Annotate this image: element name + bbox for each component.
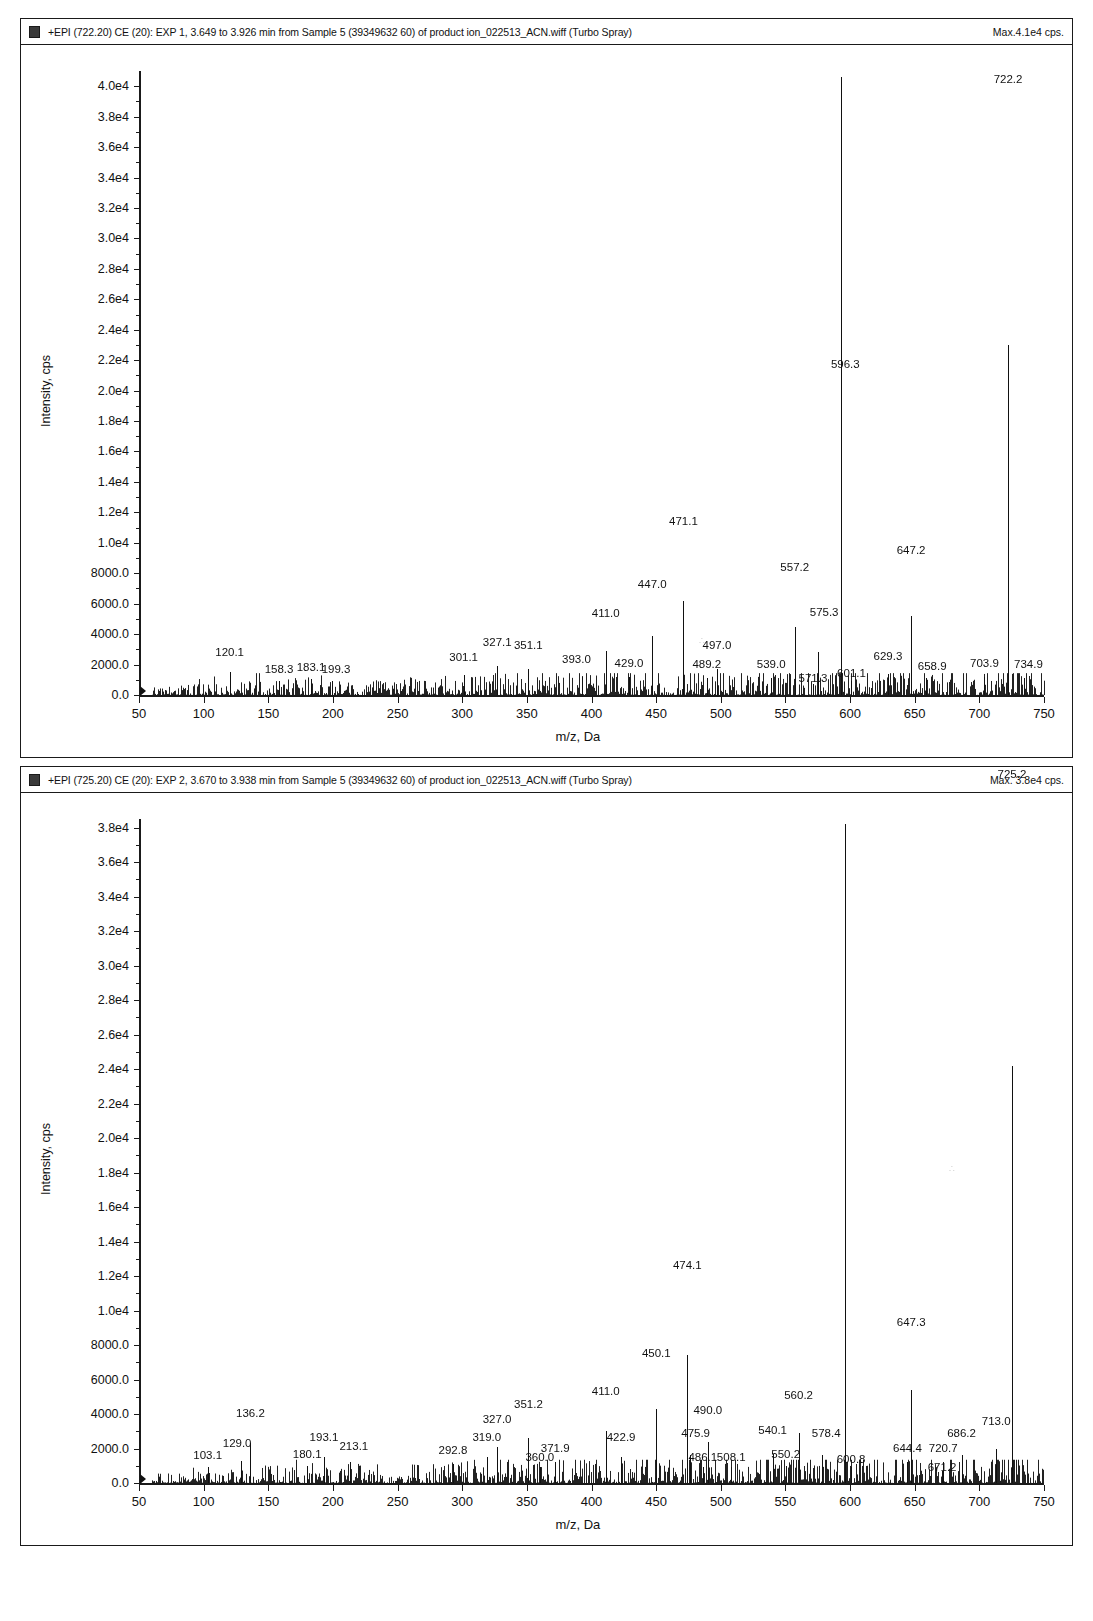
peak-label: 601.1 [837,667,866,679]
peak-label: 508.1 [717,1451,746,1463]
panel-max-intensity-exp1: Max.4.1e4 cps. [981,26,1064,38]
spectrum-peak [555,1462,556,1483]
peak-label: 596.3 [831,358,860,370]
peak-label: 411.0 [592,607,620,619]
peak-label: 327.1 [483,636,512,648]
spectrum-peak [497,666,498,695]
peak-label: 475.9 [681,1427,710,1439]
peak-label: 722.2 [994,73,1023,85]
peak-label: 540.1 [758,1424,787,1436]
spectrum-peak [687,1355,688,1483]
spectrum-peak [279,681,280,695]
spectrum-peak [795,627,796,695]
spectrum-peak [307,1466,308,1483]
peak-label: 571.3 [799,672,828,684]
spectrum-peak [621,1457,622,1483]
peak-label: 429.0 [615,657,644,669]
spectrum-peak [708,1442,709,1483]
peak-label: 703.9 [970,657,999,669]
spectrum-peak [707,678,708,695]
noise-baseline-trace [21,793,1072,1545]
spectrum-peak [888,674,889,695]
spectrum-peak [453,1464,454,1483]
peak-label: 658.9 [918,660,947,672]
spectrum-peak [528,669,529,695]
spectrum-peak [818,652,819,695]
peak-label: 560.2 [784,1389,813,1401]
peak-label: 550.2 [771,1448,800,1460]
spectrum-panel-exp1: +EPI (722.20) CE (20): EXP 1, 3.649 to 3… [20,18,1073,758]
spectrum-peak [487,1457,488,1483]
spectrum-peak [1008,345,1009,695]
panel-title-exp1: +EPI (722.20) CE (20): EXP 1, 3.649 to 3… [48,26,632,38]
spectrum-peak [771,678,772,695]
spectrum-peak [350,1462,351,1483]
spectrum-peak [540,1467,541,1483]
spectrum-peak [813,684,814,695]
spectrum-peak [324,1457,325,1483]
spectrum-peak [606,651,607,695]
spectrum-peak [907,1462,908,1483]
peak-label: 734.9 [1014,658,1043,670]
spectrum-peak [851,681,852,695]
peak-label: 193.1 [310,1431,339,1443]
scan-artifact: ∴ [949,1164,955,1174]
peak-label: 158.3 [265,663,294,675]
peak-label: 578.4 [812,1427,841,1439]
spectrum-peak [1012,1066,1013,1483]
spectrum-peak [683,601,684,695]
spectrum-peak [851,1467,852,1483]
peak-label: 411.0 [592,1385,620,1397]
spectrum-peak [845,824,846,1483]
peak-label: 180.1 [293,1448,322,1460]
peak-label: 136.2 [236,1407,265,1419]
spectrum-peak [962,1455,963,1483]
spectrum-peak [822,1455,823,1483]
peak-label: 720.7 [929,1442,958,1454]
spectrum-peak [629,677,630,695]
peak-label: 490.0 [693,1404,722,1416]
peak-label: 471.1 [669,515,698,527]
spectrum-peak [926,678,927,695]
peak-label: 647.2 [897,544,926,556]
peak-label: 120.1 [215,646,244,658]
peak-label: 539.0 [757,658,786,670]
peak-label: 319.0 [472,1431,501,1443]
peak-label: 725.2 [998,768,1027,780]
spectrum-peak [652,636,653,695]
peak-label: 629.3 [874,650,903,662]
spectrum-peak [311,679,312,695]
spectrum-peak [731,1467,732,1483]
peak-label: 371.9 [541,1442,570,1454]
peak-label: 486.1 [688,1451,717,1463]
series-color-swatch-icon [29,26,40,38]
spectrum-peak [996,1449,997,1483]
plot-area-exp2[interactable]: 0.02000.04000.06000.08000.01.0e41.2e41.4… [21,793,1072,1545]
peak-label: 450.1 [642,1347,671,1359]
peak-label: 301.1 [449,651,478,663]
spectrum-peak [799,1433,800,1483]
peak-label: 686.2 [947,1427,976,1439]
spectrum-peak [656,1409,657,1483]
panel-header-exp2: +EPI (725.20) CE (20): EXP 2, 3.670 to 3… [21,767,1072,793]
spectrum-peak [911,616,912,695]
peak-label: 647.3 [897,1316,926,1328]
spectrum-peak [1024,678,1025,695]
panel-header-exp1: +EPI (722.20) CE (20): EXP 1, 3.649 to 3… [21,19,1072,45]
spectrum-peak [241,1461,242,1483]
peak-label: 199.3 [322,663,351,675]
plot-area-exp1[interactable]: 0.02000.04000.06000.08000.01.0e41.2e41.4… [21,45,1072,757]
peak-label: 351.1 [514,639,543,651]
spectrum-peak [250,1443,251,1483]
peak-label: 327.0 [483,1413,512,1425]
spectrum-peak [911,1390,912,1483]
scan-artifact: ∴ [699,636,705,646]
peak-label: 644.4 [893,1442,922,1454]
peak-label: 213.1 [339,1440,368,1452]
peak-label: 393.0 [562,653,591,665]
series-color-swatch-icon [29,774,40,786]
spectrum-peak [332,681,333,695]
spectrum-peak [984,677,985,695]
peak-label: 557.2 [780,561,809,573]
peak-label: 351.2 [514,1398,543,1410]
